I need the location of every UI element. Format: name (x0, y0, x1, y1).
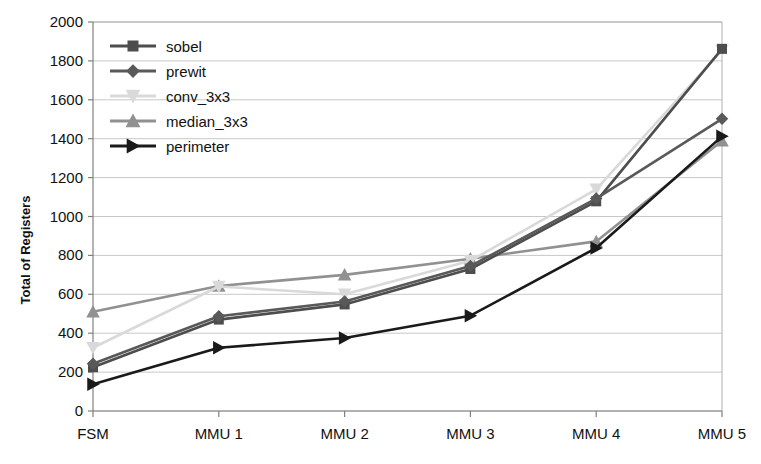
y-tick-label-400: 400 (58, 324, 83, 341)
x-tick-label-1: MMU 1 (195, 425, 243, 442)
series-sobel-point-5-square-marker (717, 44, 727, 54)
x-tick-label-2: MMU 2 (320, 425, 368, 442)
y-tick-label-1000: 1000 (50, 208, 83, 225)
legend-sobel-square-marker (128, 41, 139, 52)
y-tick-label-800: 800 (58, 246, 83, 263)
y-tick-label-1400: 1400 (50, 130, 83, 147)
y-tick-label-1600: 1600 (50, 91, 83, 108)
legend-label-perimeter: perimeter (166, 138, 229, 155)
y-tick-label-2000: 2000 (50, 13, 83, 30)
y-tick-label-0: 0 (75, 402, 83, 419)
legend-label-median_3x3: median_3x3 (166, 113, 248, 130)
legend-label-sobel: sobel (166, 38, 202, 55)
y-tick-label-1800: 1800 (50, 52, 83, 69)
legend-label-conv_3x3: conv_3x3 (166, 88, 230, 105)
x-tick-label-3: MMU 3 (446, 425, 494, 442)
x-tick-label-0: FSM (77, 425, 109, 442)
y-tick-label-200: 200 (58, 363, 83, 380)
y-tick-label-600: 600 (58, 285, 83, 302)
legend-label-prewit: prewit (166, 63, 207, 80)
y-axis-title: Total of Registers (18, 196, 33, 305)
x-tick-label-4: MMU 4 (572, 425, 620, 442)
x-tick-label-5: MMU 5 (698, 425, 746, 442)
legend-item-perimeter[interactable]: perimeter (110, 138, 229, 155)
chart-canvas: 0200400600800100012001400160018002000 FS… (0, 0, 761, 464)
y-tick-label-1200: 1200 (50, 169, 83, 186)
registers-line-chart: 0200400600800100012001400160018002000 FS… (0, 0, 761, 464)
